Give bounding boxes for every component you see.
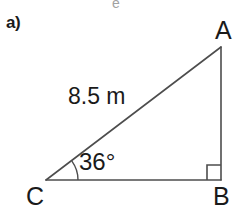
vertex-label-a: A (215, 18, 232, 43)
angle-arc-icon (72, 161, 78, 180)
triangle-side-hypotenuse (46, 47, 221, 180)
figure-container: e a) A B C 8.5 m 36° (0, 0, 249, 216)
part-label: a) (6, 14, 20, 31)
side-length-label-hypotenuse: 8.5 m (68, 85, 126, 108)
angle-measure-label-c: 36° (79, 150, 115, 174)
vertex-label-c: C (26, 184, 44, 209)
right-angle-marker-icon (207, 165, 221, 180)
vertex-label-b: B (213, 184, 230, 209)
clipped-text-artifact: e (112, 0, 120, 10)
